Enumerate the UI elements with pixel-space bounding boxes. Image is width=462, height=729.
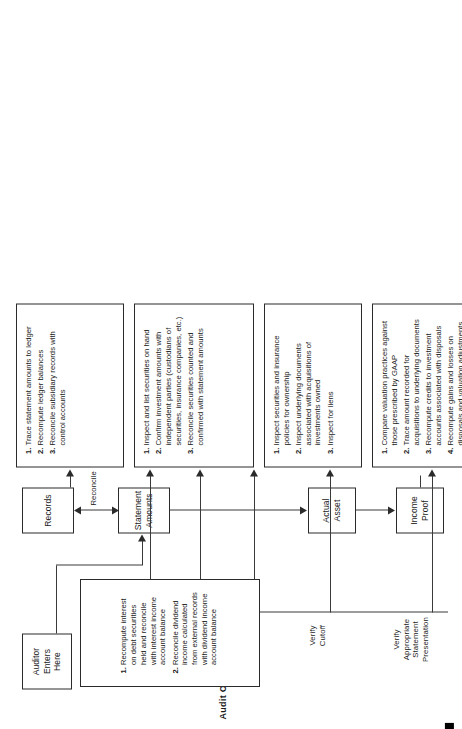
procedure-item: Inspect securities and insurance policie… [272,312,291,445]
procedure-item: Trace amount recorded for acquisitions t… [402,312,421,445]
figure-caption-bar [445,723,454,729]
procedure-item: Compare valuation practices against thos… [380,312,399,445]
arrow-actual-asset-to-income-proof [388,506,395,514]
procedure-item: Inspect and list securities on hand [142,312,152,445]
edge-label-reconcile: Reconcile [89,471,98,505]
objective-verify-presentation: Verify Appropriate Statement Presentatio… [392,613,431,665]
connector-statement-records [78,509,114,510]
objective-rule-valuation [254,472,255,612]
node-records-label: Records [43,494,54,526]
connector-auditor-to-statement-h2 [142,540,143,565]
arrow-records-procedures [66,469,74,476]
objective-verify-valuation: Verify Valuation [232,613,251,657]
connector-income-proof-to-procedures [420,475,421,487]
procedure-item: Recompute credits to investment accounts… [424,312,443,445]
objective-verify-ownership: Verify Ownership [178,613,197,657]
node-income-proof: Income Proof [396,487,444,533]
procedure-block-valuation: Compare valuation practices against thos… [372,303,462,467]
node-statement-amounts: Statement Amounts [118,487,170,533]
procedure-item: Recompute ledger balances [36,312,46,445]
node-auditor-enters-here: Auditor Enters Here [22,633,72,689]
connector-statement-to-actual-asset [170,509,304,510]
procedure-block-ownership: Inspect securities and insurance policie… [264,303,362,467]
arrow-statement-to-actual-asset [300,506,307,514]
objective-rule-presentation [432,472,433,612]
procedure-list-records: Trace statement amounts to ledger Recomp… [24,312,68,458]
arrow-ownership-procedures [196,469,204,476]
arrow-cutoff-procedures [326,469,334,476]
objective-rule-existence [150,472,151,612]
objective-verify-cutoff: Verify Cutoff [308,615,327,655]
connector-auditor-to-statement-v [56,564,142,565]
procedure-item: Recompute gains and losses on disposals … [446,312,462,445]
node-income-proof-label: Income Proof [409,496,430,524]
arrow-auditor-to-statement [138,534,146,541]
node-records: Records [22,487,74,533]
procedure-block-existence: Inspect and list securities on hand Conf… [134,303,254,467]
procedure-item: Confirm investment amounts with independ… [154,312,183,445]
arrow-existence-procedures [146,469,154,476]
node-statement-amounts-label: Statement Amounts [133,490,154,530]
page-title: Audit Objectives [218,643,228,719]
procedure-item: Reconcile subsidiary records with contro… [48,312,67,445]
objective-verify-existence: Verify Existence [112,615,131,655]
arrow-records-to-statement [112,506,119,514]
figure-caption: Figure 18–9 [442,723,456,729]
arrow-presentation-procedures [428,469,436,476]
connector-records-to-procedures [70,475,71,487]
objective-spine [128,611,448,612]
arrow-statement-to-records [74,506,81,514]
procedure-item: Trace statement amounts to ledger [24,312,34,445]
procedure-item: Inspect underlying documents associated … [294,312,323,445]
procedure-item: Reconcile securities counted and confirm… [186,312,205,445]
node-actual-asset-label: Actual Asset [321,498,342,522]
audit-objectives-flowchart: Audit Objectives Auditor Enters Here Rec… [0,0,462,729]
connector-actual-asset-to-income-proof [356,509,392,510]
node-auditor-enters-here-label: Auditor Enters Here [31,647,63,675]
procedure-list-ownership: Inspect securities and insurance policie… [272,312,335,458]
objective-rule-ownership [200,472,201,612]
connector-auditor-to-statement-h [56,565,57,633]
objective-rule-cutoff [330,472,331,612]
procedure-item: Inspect for liens [326,312,336,445]
procedure-list-valuation: Compare valuation practices against thos… [380,312,462,458]
procedure-block-records: Trace statement amounts to ledger Recomp… [16,303,124,467]
node-actual-asset: Actual Asset [308,487,356,533]
procedure-list-existence: Inspect and list securities on hand Conf… [142,312,205,458]
arrow-valuation-procedures [250,469,258,476]
